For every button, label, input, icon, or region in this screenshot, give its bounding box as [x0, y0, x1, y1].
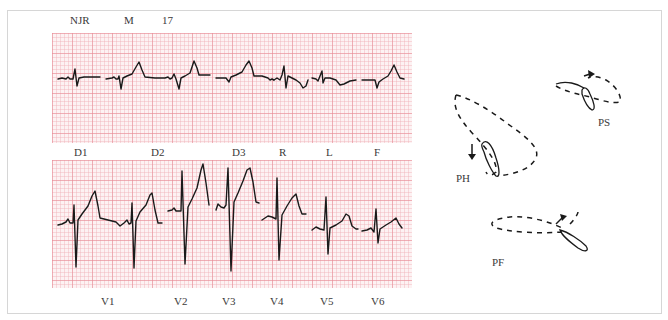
trace-v5 — [312, 197, 358, 254]
trace-d3 — [216, 61, 274, 82]
trace-v6 — [362, 209, 402, 243]
limb-lead-traces — [58, 61, 404, 89]
trace-f — [362, 65, 404, 88]
trace-v4 — [262, 178, 306, 260]
precordial-lead-traces — [58, 164, 402, 271]
trace-v1 — [58, 191, 162, 268]
tracings-layer — [0, 0, 668, 320]
trace-r — [274, 66, 308, 88]
trace-l — [312, 71, 356, 85]
trace-v2 — [168, 164, 209, 264]
trace-d2 — [106, 61, 210, 89]
trace-d1 — [58, 69, 100, 86]
vcg-loop-pf — [492, 212, 587, 251]
trace-v3 — [216, 168, 259, 271]
vcg-loop-ps — [556, 70, 620, 110]
vcg-loop-ph — [455, 95, 537, 176]
